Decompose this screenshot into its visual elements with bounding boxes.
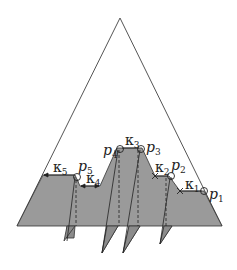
diagram-figure: p1 p2 p3 p4 p5 κ1 κ2 κ3 κ4 κ5	[0, 0, 237, 270]
label-k3: κ3	[125, 132, 140, 150]
fin-4-tip	[160, 226, 172, 244]
label-p3: p3	[146, 139, 161, 157]
label-k4: κ4	[86, 170, 101, 188]
label-k2: κ2	[155, 159, 169, 177]
label-k1: κ1	[185, 176, 199, 194]
label-k5: κ5	[53, 159, 68, 177]
label-p4: p4	[103, 142, 118, 160]
label-p2: p2	[171, 157, 186, 175]
label-p1: p1	[209, 186, 224, 204]
fins-front	[64, 226, 172, 253]
